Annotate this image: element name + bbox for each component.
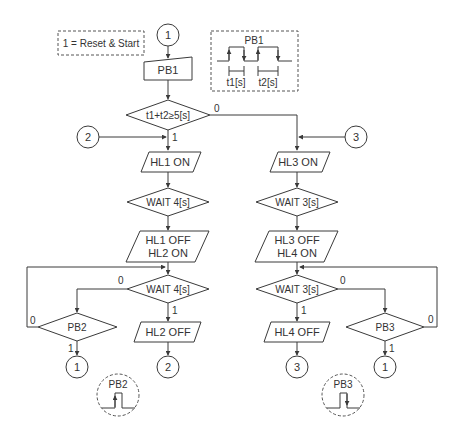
wait-3s-b: WAIT 3[s] [256, 275, 338, 303]
svg-text:t1+t2≥5[s]: t1+t2≥5[s] [146, 110, 190, 121]
svg-text:3: 3 [294, 361, 300, 373]
svg-text:WAIT 4[s]: WAIT 4[s] [146, 284, 190, 295]
t2-label: t2[s] [259, 77, 278, 88]
legend-text: 1 = Reset & Start [63, 38, 140, 49]
svg-text:WAIT 4[s]: WAIT 4[s] [146, 197, 190, 208]
hl1-on-output: HL1 ON [141, 152, 201, 172]
pb2-yes-label: 1 [68, 343, 74, 354]
svg-text:HL3 ON: HL3 ON [278, 156, 318, 168]
svg-text:WAIT 3[s]: WAIT 3[s] [275, 284, 319, 295]
svg-text:1: 1 [74, 361, 80, 373]
hl4-off-output: HL4 OFF [264, 322, 330, 342]
t1-label: t1[s] [227, 77, 246, 88]
svg-text:HL1 ON: HL1 ON [150, 156, 190, 168]
connector-hl4-out: 3 [286, 356, 308, 378]
svg-text:2: 2 [85, 131, 91, 143]
hl3-on-output: HL3 ON [270, 152, 330, 172]
svg-text:PB2: PB2 [109, 379, 128, 390]
timing-diagram: PB1 t1[s] t2[s] [211, 31, 298, 91]
timing-title: PB1 [245, 35, 264, 46]
pb3-decision: PB3 [346, 313, 424, 341]
svg-text:HL1 OFF: HL1 OFF [145, 234, 191, 246]
wait-3s-a: WAIT 3[s] [256, 188, 338, 216]
sum-no-label: 0 [214, 103, 220, 114]
svg-text:HL2 OFF: HL2 OFF [145, 326, 191, 338]
hl2-off-output: HL2 OFF [134, 322, 201, 342]
svg-text:HL4 ON: HL4 ON [277, 247, 317, 259]
pb2-pulse-note: PB2 [97, 374, 139, 416]
decision-t1-t2: t1+t2≥5[s] [126, 100, 210, 130]
wait4b-yes-label: 1 [172, 305, 178, 316]
svg-text:PB1: PB1 [158, 64, 179, 76]
start-connector: 1 [157, 24, 179, 46]
svg-text:2: 2 [165, 361, 171, 373]
svg-text:HL3 OFF: HL3 OFF [274, 234, 320, 246]
svg-text:1: 1 [165, 29, 171, 41]
hl3-off-hl4-on-output: HL3 OFF HL4 ON [255, 231, 338, 262]
svg-text:WAIT 3[s]: WAIT 3[s] [275, 197, 319, 208]
svg-text:PB2: PB2 [68, 322, 87, 333]
connector-2-in: 2 [77, 126, 99, 148]
wait-4s-a: WAIT 4[s] [127, 188, 209, 216]
wait3b-yes-label: 1 [301, 305, 307, 316]
svg-text:HL2 ON: HL2 ON [148, 247, 188, 259]
pb3-no-label: 0 [428, 314, 434, 325]
connector-pb3-out: 1 [374, 356, 396, 378]
pb3-yes-label: 1 [389, 343, 395, 354]
svg-text:3: 3 [353, 131, 359, 143]
legend-box: 1 = Reset & Start [58, 31, 144, 55]
connector-pb2-out: 1 [66, 356, 88, 378]
svg-text:1: 1 [382, 361, 388, 373]
pb3-pulse-note: PB3 [322, 374, 364, 416]
flowchart: 1 = Reset & Start PB1 t1[s] t2[s] 1 PB1 … [0, 0, 460, 443]
sum-yes-label: 1 [172, 132, 178, 143]
pb2-no-label: 0 [30, 315, 36, 326]
svg-text:PB3: PB3 [334, 379, 353, 390]
wait4b-no-label: 0 [118, 275, 124, 286]
svg-text:HL4 OFF: HL4 OFF [274, 326, 320, 338]
pb2-decision: PB2 [38, 313, 117, 341]
hl1-off-hl2-on-output: HL1 OFF HL2 ON [126, 231, 209, 262]
wait-4s-b: WAIT 4[s] [127, 275, 209, 303]
wait3b-no-label: 0 [340, 275, 346, 286]
connector-3-in: 3 [345, 126, 367, 148]
pb1-manual-input: PB1 [144, 57, 192, 80]
svg-text:PB3: PB3 [376, 322, 395, 333]
connector-hl2-out: 2 [157, 356, 179, 378]
